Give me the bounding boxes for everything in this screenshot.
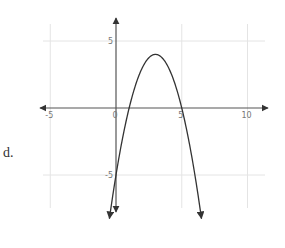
x-tick-label: 0 — [112, 111, 117, 120]
axes — [40, 18, 268, 212]
x-tick-label: 10 — [241, 111, 251, 120]
grid-lines — [43, 24, 265, 208]
x-tick-label: -5 — [45, 111, 53, 120]
parabola-curve — [109, 54, 201, 218]
parabola-plot: -505105-5 — [0, 0, 285, 248]
y-tick-label: 5 — [108, 37, 113, 46]
y-tick-label: -5 — [105, 171, 113, 180]
